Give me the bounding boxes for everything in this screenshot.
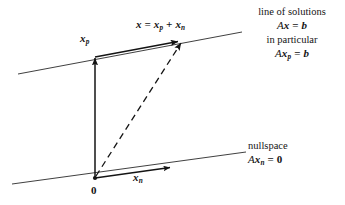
equation-ax-equals-b: Ax=b [244, 18, 340, 32]
origin-label: 0 [91, 185, 97, 197]
xn-shifted-vector [95, 42, 178, 58]
xn-label: xn [133, 172, 143, 186]
equation-axn-equals-zero: Axn=0 [248, 152, 340, 168]
equation-axp-equals-b: Axp=b [244, 46, 340, 62]
nullspace-caption: nullspace [248, 139, 340, 152]
x-sum-label: x=xp+xn [136, 19, 185, 33]
solution-diagram-figure: xp x=xp+xn xn 0 line of solutions Ax=b i… [0, 0, 345, 205]
nullspace-annotation: nullspace Axn=0 [248, 139, 340, 169]
line-of-solutions-annotation: line of solutions Ax=b in particular Axp… [244, 5, 340, 62]
line-of-solutions [18, 32, 242, 74]
nullspace-line [12, 152, 246, 184]
xp-label: xp [80, 33, 89, 47]
origin-point [93, 176, 97, 180]
in-particular-caption: in particular [244, 33, 340, 46]
x-total-vector [96, 43, 181, 176]
solutions-caption: line of solutions [244, 5, 340, 18]
